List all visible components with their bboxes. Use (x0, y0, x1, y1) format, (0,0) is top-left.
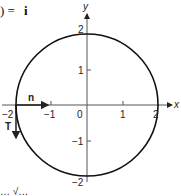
x-tick-1: 1 (120, 109, 126, 120)
x-tick-2: 2 (153, 109, 159, 120)
normal-vector-label: n (28, 92, 34, 103)
x-tick-neg2: −2 (2, 109, 14, 120)
tangent-vector-label: T (5, 121, 11, 132)
equation-right: i (24, 3, 28, 18)
y-tick-1: 1 (78, 65, 84, 76)
y-tick-neg2: −2 (72, 177, 84, 188)
y-tick-neg1: −1 (72, 136, 84, 147)
y-tick-2: 2 (78, 24, 84, 35)
x-tick-neg1: −1 (44, 109, 56, 120)
equation-left: ) = (0, 3, 15, 18)
caption-fragment: … √… (0, 186, 28, 196)
x-axis-label: x (173, 99, 180, 110)
y-axis-label: y (82, 1, 89, 12)
x-tick-0: 0 (77, 109, 83, 120)
unit-circle-diagram: ) = i x y −2 −1 0 1 2 2 1 −1 −2 n T … √… (0, 0, 181, 196)
